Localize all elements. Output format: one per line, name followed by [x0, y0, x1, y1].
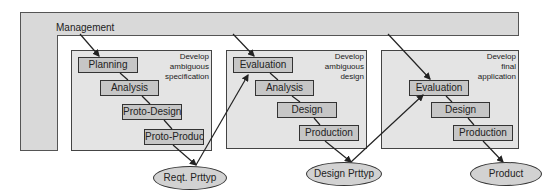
- output-requirements-prototype: Reqt. Prttyp: [153, 166, 227, 190]
- output-product: Product: [470, 162, 542, 186]
- flow-arrows: [0, 0, 552, 194]
- output-design-prototype: Design Prttyp: [306, 162, 382, 186]
